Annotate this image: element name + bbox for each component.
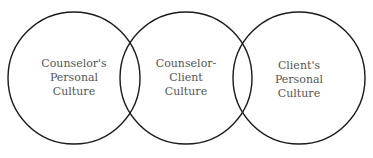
counselor-culture-label: Counselor's Personal Culture (29, 57, 119, 99)
label-line: Personal (29, 71, 119, 85)
label-line: Culture (141, 85, 231, 99)
label-line: Counselor's (29, 57, 119, 71)
label-line: Personal (254, 73, 344, 87)
label-line: Client (141, 71, 231, 85)
counselor-client-culture-label: Counselor- Client Culture (141, 57, 231, 99)
label-line: Counselor- (141, 57, 231, 71)
label-line: Culture (254, 87, 344, 101)
label-line: Client's (254, 59, 344, 73)
label-line: Culture (29, 85, 119, 99)
client-culture-label: Client's Personal Culture (254, 59, 344, 101)
